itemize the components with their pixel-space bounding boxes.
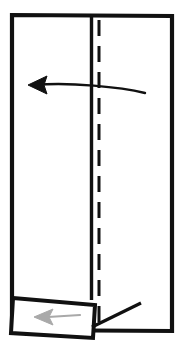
folding-diagram-canvas — [0, 0, 179, 342]
folding-diagram-svg — [0, 0, 179, 342]
bottom-flap-outline — [11, 298, 95, 338]
